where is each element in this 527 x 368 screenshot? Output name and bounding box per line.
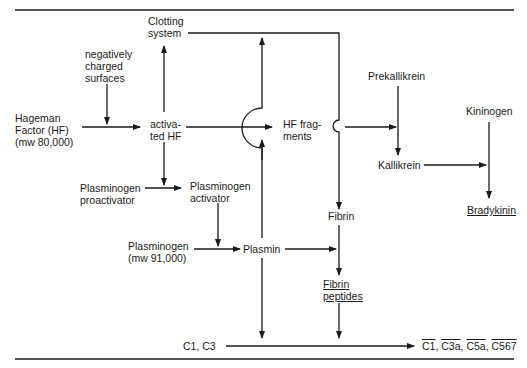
node-complement-products: C1, C3a, C5a, C567 bbox=[422, 340, 517, 352]
node-kallikrein: Kallikrein bbox=[378, 159, 421, 171]
node-text: Hageman bbox=[15, 112, 73, 124]
node-text: ments bbox=[283, 130, 322, 142]
node-text: system bbox=[148, 27, 184, 39]
node-text: peptides bbox=[323, 290, 363, 302]
node-fibrin-peptides: Fibrin peptides bbox=[323, 278, 363, 302]
node-text: Fibrin bbox=[323, 278, 363, 290]
node-text: activator bbox=[190, 192, 251, 204]
node-text: negatively bbox=[85, 48, 132, 60]
node-prekallikrein: Prekallikrein bbox=[368, 70, 425, 82]
node-clotting-system: Clotting system bbox=[148, 15, 184, 39]
node-text: Clotting bbox=[148, 15, 184, 27]
node-hf-fragments: HF frag- ments bbox=[283, 118, 322, 142]
node-fibrin: Fibrin bbox=[328, 210, 354, 222]
node-text: HF frag- bbox=[283, 118, 322, 130]
complement-c5a: C5a bbox=[466, 340, 485, 352]
complement-c1: C1 bbox=[422, 340, 435, 352]
node-negatively-charged-surfaces: negatively charged surfaces bbox=[85, 48, 132, 84]
node-plasminogen-proactivator: Plasminogen proactivator bbox=[80, 182, 141, 206]
complement-c567: C567 bbox=[492, 340, 517, 352]
node-hageman-factor: Hageman Factor (HF) (mw 80,000) bbox=[15, 112, 73, 148]
node-c1-c3: C1, C3 bbox=[183, 340, 216, 352]
node-text: charged bbox=[85, 60, 132, 72]
node-text: ted HF bbox=[150, 130, 182, 142]
node-bradykinin: Bradykinin bbox=[467, 204, 516, 216]
node-kininogen: Kininogen bbox=[466, 105, 513, 117]
complement-c3a: C3a bbox=[441, 340, 460, 352]
node-text: activa- bbox=[150, 118, 182, 130]
node-text: Plasminogen bbox=[190, 180, 251, 192]
node-plasminogen-activator: Plasminogen activator bbox=[190, 180, 251, 204]
kinin-complement-pathway-diagram: Clotting system negatively charged surfa… bbox=[0, 0, 527, 368]
node-plasminogen: Plasminogen (mw 91,000) bbox=[128, 240, 189, 264]
node-text: Factor (HF) bbox=[15, 124, 73, 136]
node-text: (mw 80,000) bbox=[15, 136, 73, 148]
node-text: Plasminogen bbox=[80, 182, 141, 194]
arrow-plasmin-to-clotting bbox=[242, 38, 262, 238]
node-text: Plasminogen bbox=[128, 240, 189, 252]
node-activated-hf: activa- ted HF bbox=[150, 118, 182, 142]
node-text: surfaces bbox=[85, 72, 132, 84]
node-text: (mw 91,000) bbox=[128, 252, 189, 264]
node-text: proactivator bbox=[80, 194, 141, 206]
node-plasmin: Plasmin bbox=[243, 243, 280, 255]
